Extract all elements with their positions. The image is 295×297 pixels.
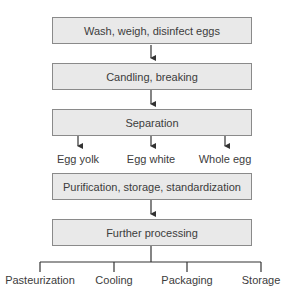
output-pasteurization: Pasteurization — [5, 274, 75, 286]
output-cooling: Cooling — [95, 274, 132, 286]
step-candling-breaking: Candling, breaking — [52, 63, 252, 90]
step-label: Wash, weigh, disinfect eggs — [84, 25, 220, 37]
connector-lines — [0, 0, 295, 297]
step-separation: Separation — [52, 109, 252, 136]
output-whole-egg: Whole egg — [199, 153, 252, 165]
output-egg-white: Egg white — [127, 153, 175, 165]
step-label: Separation — [125, 117, 178, 129]
step-purification: Purification, storage, standardization — [52, 173, 252, 200]
output-packaging: Packaging — [161, 274, 212, 286]
step-label: Purification, storage, standardization — [63, 181, 241, 193]
step-label: Further processing — [106, 227, 198, 239]
output-egg-yolk: Egg yolk — [57, 153, 99, 165]
output-storage: Storage — [242, 274, 281, 286]
step-label: Candling, breaking — [106, 71, 198, 83]
step-further-processing: Further processing — [52, 219, 252, 246]
step-wash-weigh-disinfect: Wash, weigh, disinfect eggs — [52, 17, 252, 44]
